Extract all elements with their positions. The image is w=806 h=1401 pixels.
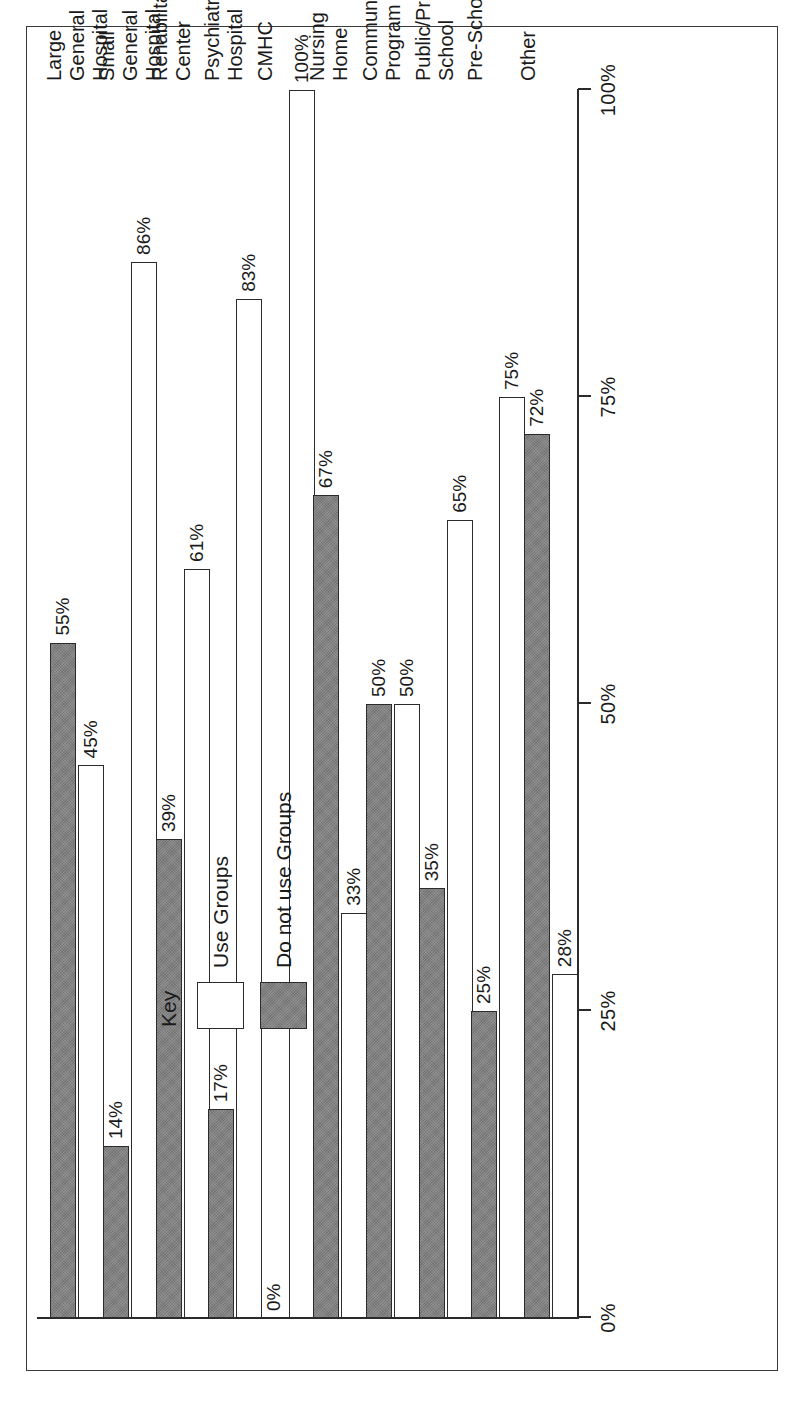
bar-row: 83% [236,80,262,1318]
bar-group: 72%28% [524,80,578,1318]
bar-value-label: 75% [501,351,523,389]
rotated-chart-stage: 0%25%50%75%100% 55%45%14%86%39%61%17%83%… [37,39,767,1359]
white-square-icon [197,982,244,1029]
category-label-line: Other [517,0,540,81]
bar-row: 0% [261,80,287,1318]
category-label-line: School [435,0,458,81]
bar-row: 25% [471,80,497,1318]
bar-row: 39% [156,80,182,1318]
axis-tick-label: 50% [597,683,620,724]
axis-tick-mark [578,88,591,90]
category-label-line: Program [382,0,405,81]
legend-label-do-not-use-groups: Do not use Groups [272,791,296,967]
bar-do-not-use-groups [50,642,76,1317]
bar-do-not-use-groups [524,433,550,1317]
bar-group: 25%75% [471,80,525,1318]
bar-value-label: 50% [368,658,390,696]
bar-use-groups [289,90,315,1318]
bar-row: 50% [366,80,392,1318]
bar-use-groups [131,261,157,1317]
bar-use-groups [499,397,525,1318]
bar-value-label: 14% [105,1101,127,1139]
bar-group: 55%45% [50,80,104,1318]
bar-use-groups [341,912,367,1317]
category-label-line: Small [96,0,119,81]
bar-group: 17%83% [208,80,262,1318]
bar-group: 50%50% [366,80,420,1318]
bar-use-groups [447,519,473,1317]
bar-group: 0%100% [261,80,315,1318]
category-label-line: Public/Private [412,0,435,81]
bar-use-groups [394,704,420,1318]
legend-entry-do-not-use-groups: Do not use Groups [260,729,307,1029]
bar-value-label: 35% [421,843,443,881]
bar-row: 35% [419,80,445,1318]
axis-tick-mark [578,1009,591,1011]
legend-title: Key [157,729,181,1027]
bar-row: 50% [394,80,420,1318]
bar-value-label: 65% [449,474,471,512]
bar-chart-plot: 0%25%50%75%100% 55%45%14%86%39%61%17%83%… [37,39,767,1359]
axis-tick-label: 100% [597,63,620,115]
bar-row: 55% [50,80,76,1318]
category-label-line: Large [43,0,66,81]
bar-do-not-use-groups [471,1011,497,1318]
bar-group: 14%86% [103,80,157,1318]
category-label: Pre-School [464,0,487,81]
category-label-line: CMHC [254,0,277,81]
bar-value-label: 72% [526,388,548,426]
bar-row: 72% [524,80,550,1318]
bar-do-not-use-groups [366,704,392,1318]
category-label: NursingHome [306,0,352,81]
bar-row: 14% [103,80,129,1318]
bar-value-label: 17% [210,1064,232,1102]
legend-entry-use-groups: Use Groups [197,729,244,1029]
category-label-line: General [66,0,89,81]
bar-value-label: 67% [315,450,337,488]
category-label-line: Community [359,0,382,81]
bar-group: 39%61% [156,80,210,1318]
chart-legend: Key Use Groups Do not use Groups [157,729,323,1029]
bar-do-not-use-groups [419,888,445,1318]
bar-value-label: 25% [473,965,495,1003]
category-label-line: Center [172,0,195,81]
category-label: CMHC [254,0,277,81]
figure-frame: 0%25%50%75%100% 55%45%14%86%39%61%17%83%… [26,26,778,1371]
legend-label-use-groups: Use Groups [209,855,233,967]
bar-value-label: 33% [343,867,365,905]
bar-row: 100% [289,80,315,1318]
category-label-line: General [119,0,142,81]
category-label-line: Hospital [224,0,247,81]
axis-tick-mark [578,702,591,704]
bar-row: 33% [341,80,367,1318]
category-label-line: Psychiatric [201,0,224,81]
bar-value-label: 0% [263,1283,285,1310]
category-label-line: Home [329,0,352,81]
bar-use-groups [78,765,104,1318]
bar-do-not-use-groups [103,1146,129,1318]
axis-tick-label: 25% [597,990,620,1031]
category-label-line: Pre-School [464,0,487,81]
axis-tick-mark [578,1316,591,1318]
bar-group: 67%33% [313,80,367,1318]
axis-tick-label: 75% [597,376,620,417]
category-label: RehabilitationCenter [149,0,195,81]
category-label: Public/PrivateSchool [412,0,458,81]
axis-tick-label: 0% [597,1303,620,1333]
category-label-line: Rehabilitation [149,0,172,81]
bar-row: 45% [78,80,104,1318]
bar-value-label: 28% [554,929,576,967]
bar-use-groups [552,974,578,1318]
bar-value-label: 55% [52,597,74,635]
category-label: PsychiatricHospital [201,0,247,81]
bar-value-label: 61% [186,523,208,561]
bar-value-label: 86% [133,216,155,254]
category-label: Other [517,0,540,81]
bar-row: 65% [447,80,473,1318]
category-label: CommunityProgram [359,0,405,81]
bar-row: 17% [208,80,234,1318]
bar-value-label: 50% [396,658,418,696]
gray-square-icon [260,982,307,1029]
bar-value-label: 45% [80,720,102,758]
category-label-line: Nursing [306,0,329,81]
